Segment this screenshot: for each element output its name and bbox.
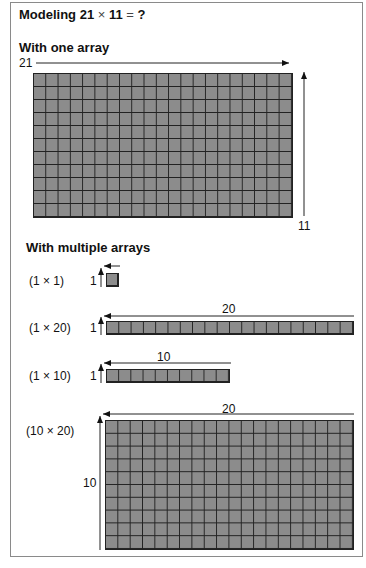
array-label-1x1: (1 × 1) <box>29 274 64 288</box>
multiple-arrays-heading: With multiple arrays <box>26 240 150 255</box>
one-array-heading: With one array <box>19 40 109 55</box>
array-1x1 <box>106 273 119 287</box>
title-prefix: Modeling 21 <box>19 7 94 22</box>
times-symbol: × <box>98 7 106 22</box>
side-label-1x1: 1 <box>90 274 97 288</box>
array-1x20 <box>106 321 354 335</box>
title-question: ? <box>138 7 146 22</box>
side-label-1x10: 1 <box>90 369 97 383</box>
side-label-10x20: 10 <box>83 476 96 490</box>
equals-symbol: = <box>126 7 134 22</box>
array-label-1x10: (1 × 10) <box>29 369 71 383</box>
top-label-1x10: 10 <box>157 350 170 364</box>
array-10x20 <box>105 420 354 550</box>
array-label-1x20: (1 × 20) <box>29 321 71 335</box>
top-label-10x20: 20 <box>222 402 235 416</box>
top-label-1x20: 20 <box>222 302 235 316</box>
side-label-1x20: 1 <box>90 321 97 335</box>
page-title: Modeling 21 × 11 = ? <box>19 7 146 22</box>
array-21x11 <box>33 73 293 218</box>
array-1x10 <box>106 369 230 383</box>
one-array-width-label: 21 <box>19 56 32 70</box>
title-factor: 11 <box>109 7 123 22</box>
array-label-10x20: (10 × 20) <box>26 424 74 438</box>
one-array-height-label: 11 <box>298 219 310 233</box>
